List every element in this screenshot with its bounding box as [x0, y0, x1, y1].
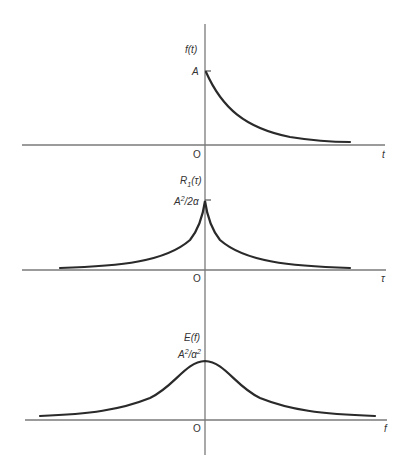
diagram-canvas	[0, 0, 407, 469]
peak-base: A	[174, 196, 181, 207]
r-argument: (τ)	[191, 175, 201, 186]
peak3-base: A	[178, 349, 185, 360]
amplitude-a-label: A	[192, 67, 199, 77]
r1-tau-label: R1(τ)	[180, 176, 202, 188]
f-of-t-label: f(t)	[185, 45, 197, 55]
peak3-exp2: 2	[197, 348, 201, 355]
origin-label-3: O	[193, 424, 201, 434]
exponential-decay-curve	[206, 72, 350, 142]
energy-spectrum-curve	[40, 361, 375, 416]
peak-rest: /2α	[185, 196, 199, 207]
f-axis-label: f	[384, 424, 387, 434]
origin-label-1: O	[193, 150, 201, 160]
peak3-mid: /α	[189, 349, 197, 360]
tau-axis-label: τ	[381, 274, 385, 284]
signal-diagram: f(t) A O t R1(τ) A2/2α O τ E(f) A2/α2 O …	[0, 0, 407, 469]
peak-a2-over-2alpha-label: A2/2α	[174, 195, 199, 207]
e-of-f-label: E(f)	[184, 333, 200, 343]
origin-label-2: O	[193, 274, 201, 284]
t-axis-label: t	[382, 150, 385, 160]
peak-a2-over-alpha2-label: A2/α2	[178, 348, 201, 360]
